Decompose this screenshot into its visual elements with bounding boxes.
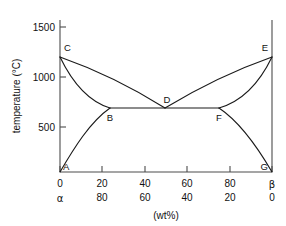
x-tick-label-top-0: 0	[57, 178, 63, 189]
point-label-G: G	[261, 161, 268, 172]
point-label-E: E	[262, 42, 268, 53]
phase-boundary-curves	[60, 57, 272, 172]
x-tick-labels-bottom: α 80 60 40 20 0	[57, 192, 276, 204]
x-tick-labels-top: 0 20 40 60 80 β	[57, 178, 275, 190]
x-tick-label-bottom-40: 40	[181, 192, 193, 203]
x-tick-label-bottom-0: 0	[269, 192, 275, 203]
point-label-C: C	[64, 42, 71, 53]
phase-diagram-figure: A B C D E F G 1500 1000 500 0 20 40 60 8…	[0, 0, 286, 226]
point-label-B: B	[107, 112, 113, 123]
x-tick-label-top-60: 60	[181, 178, 193, 189]
point-label-F: F	[216, 112, 222, 123]
x-tick-label-bottom-80: 80	[96, 192, 108, 203]
y-tick-label-500: 500	[38, 122, 55, 133]
point-label-D: D	[164, 94, 171, 105]
phase-diagram-svg: A B C D E F G 1500 1000 500 0 20 40 60 8…	[0, 0, 286, 226]
x-tick-label-top-80: 80	[224, 178, 236, 189]
y-axis-title: temperature (°C)	[11, 59, 22, 134]
x-tick-marks	[60, 166, 272, 172]
x-tick-label-top-beta: β	[269, 179, 275, 190]
x-tick-label-bottom-60: 60	[139, 192, 151, 203]
x-tick-label-top-40: 40	[139, 178, 151, 189]
y-tick-label-1000: 1000	[33, 72, 56, 83]
y-tick-label-1500: 1500	[33, 22, 56, 33]
y-tick-labels: 1500 1000 500	[33, 22, 56, 133]
point-label-A: A	[63, 161, 70, 172]
x-axis-title: (wt%)	[153, 210, 179, 221]
solidus-right-curve	[219, 57, 272, 108]
x-tick-label-top-20: 20	[96, 178, 108, 189]
x-tick-label-bottom-alpha: α	[57, 193, 64, 204]
point-labels: A B C D E F G	[63, 42, 268, 172]
solidus-left-curve	[60, 57, 110, 108]
x-tick-label-bottom-20: 20	[224, 192, 236, 203]
